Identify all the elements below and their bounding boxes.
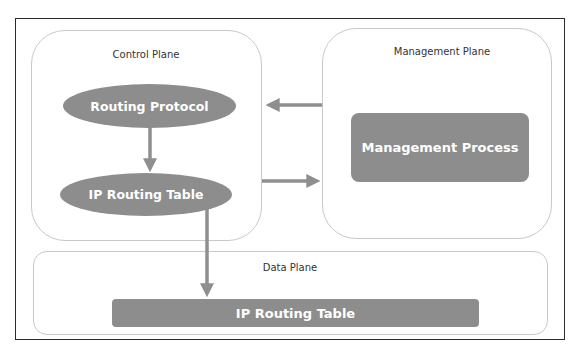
management-plane-label: Management Plane [394,46,490,57]
management-process-node: Management Process [351,113,529,182]
data-ip-routing-table-label: IP Routing Table [236,306,355,321]
control-ip-routing-table-label: IP Routing Table [89,187,204,202]
routing-protocol-node: Routing Protocol [63,84,236,128]
control-plane-label: Control Plane [113,49,180,60]
control-ip-routing-table-node: IP Routing Table [60,173,232,216]
routing-protocol-label: Routing Protocol [90,99,208,114]
management-process-label: Management Process [361,140,518,155]
data-ip-routing-table-node: IP Routing Table [112,299,479,327]
data-plane-label: Data Plane [263,262,317,273]
